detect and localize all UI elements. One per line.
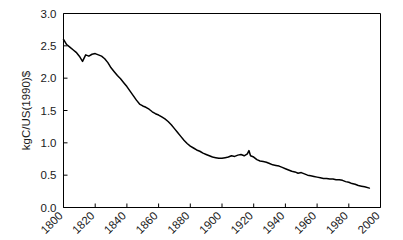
x-tick-label: 1960 [292, 209, 319, 236]
x-tick-label: 1980 [324, 209, 351, 236]
data-series-group [64, 39, 370, 188]
y-tick-label: 2.0 [41, 72, 57, 84]
x-tick-label: 1820 [70, 209, 97, 236]
x-tick-label: 1940 [260, 209, 287, 236]
y-axis-title-text: kgC/US(1990)$ [20, 70, 32, 150]
x-tick-label: 1840 [102, 209, 129, 236]
x-tick-label: 1900 [197, 209, 224, 236]
data-line-carbon-intensity [64, 39, 370, 188]
y-tick-label: 2.5 [41, 40, 57, 52]
y-tick-label: 3.0 [41, 8, 57, 20]
y-tick-label: 0.5 [41, 169, 57, 181]
y-tick-label: 1.5 [41, 105, 57, 117]
y-axis-tick-labels: 0.00.51.01.52.02.53.0 [41, 8, 57, 214]
x-tick-label: 1880 [165, 209, 192, 236]
x-tick-label: 2000 [355, 209, 382, 236]
x-axis-tick-labels: 1800182018401860188019001920194019601980… [38, 209, 382, 236]
y-tick-label: 1.0 [41, 137, 57, 149]
x-tick-label: 1920 [229, 209, 256, 236]
chart-figure: kgC/US(1990)$ 0.00.51.01.52.02.53.0 1800… [0, 0, 403, 240]
y-axis-title: kgC/US(1990)$ [20, 70, 32, 150]
x-tick-label: 1860 [133, 209, 160, 236]
line-chart: kgC/US(1990)$ 0.00.51.01.52.02.53.0 1800… [0, 0, 403, 240]
